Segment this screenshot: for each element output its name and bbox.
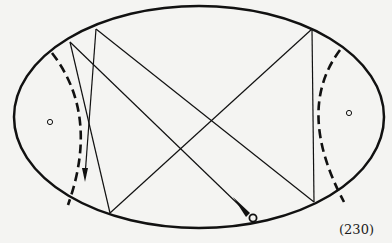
cue-ball — [249, 214, 256, 221]
trajectory-lines — [70, 29, 314, 213]
arrowhead-icon — [82, 168, 88, 182]
cue-icon — [233, 197, 250, 217]
right-caustic-dashed — [318, 50, 344, 202]
ellipse-table — [14, 6, 384, 228]
figure-caption: (230) — [339, 222, 374, 237]
right-focus-icon — [346, 110, 351, 115]
billiard-diagram — [0, 0, 392, 243]
left-caustic-dashed — [52, 53, 81, 205]
left-focus-icon — [47, 119, 52, 124]
